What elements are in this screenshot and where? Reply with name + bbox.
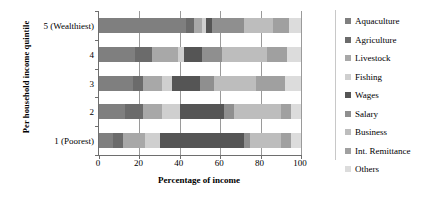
bar-segment-business[interactable] <box>234 104 280 119</box>
legend-divider <box>335 10 336 160</box>
bar-segment-aquaculture[interactable] <box>99 76 133 91</box>
y-axis-tick <box>95 126 99 127</box>
bar-segment-salary[interactable] <box>224 104 234 119</box>
bar-segment-agriculture[interactable] <box>133 76 143 91</box>
bar-segment-wages[interactable] <box>172 76 200 91</box>
legend-swatch-icon <box>345 37 351 43</box>
legend-swatch-icon <box>345 74 351 80</box>
y-axis-tick-label: 5 (Wealthiest) <box>10 21 94 31</box>
bar-segment-aquaculture[interactable] <box>99 47 135 62</box>
legend-label: Int. Remittance <box>355 146 410 156</box>
y-axis-tick <box>95 40 99 41</box>
bar-segment-business[interactable] <box>222 47 266 62</box>
bar-segment-int-remittance[interactable] <box>281 104 291 119</box>
bar-segment-business[interactable] <box>250 133 280 148</box>
bar-segment-livestock[interactable] <box>143 76 161 91</box>
legend-label: Agriculture <box>355 35 396 45</box>
legend-swatch-icon <box>345 111 351 117</box>
legend-swatch-icon <box>345 55 351 61</box>
bar-segment-int-remittance[interactable] <box>273 18 289 33</box>
bar-segment-agriculture[interactable] <box>186 18 194 33</box>
x-axis-tick-label: 40 <box>159 158 199 168</box>
bar-segment-business[interactable] <box>244 18 272 33</box>
stacked-bar-row[interactable] <box>99 76 301 91</box>
bar-segment-others[interactable] <box>285 76 301 91</box>
x-axis-title: Percentage of income <box>98 175 300 185</box>
legend-item[interactable]: Salary <box>345 105 435 124</box>
bar-segment-livestock[interactable] <box>152 47 178 62</box>
legend-item[interactable]: Business <box>345 123 435 142</box>
x-axis-tick-label: 20 <box>118 158 158 168</box>
stacked-bar-row[interactable] <box>99 104 301 119</box>
bar-segment-others[interactable] <box>287 47 301 62</box>
bar-segment-livestock[interactable] <box>194 18 202 33</box>
bar-segment-wages[interactable] <box>184 47 202 62</box>
y-axis-tick <box>95 69 99 70</box>
legend-swatch-icon <box>345 148 351 154</box>
bar-segment-int-remittance[interactable] <box>281 133 291 148</box>
legend-item[interactable]: Others <box>345 160 435 179</box>
bar-segment-fishing[interactable] <box>145 133 159 148</box>
bar-segment-others[interactable] <box>289 18 301 33</box>
legend-item[interactable]: Agriculture <box>345 31 435 50</box>
bar-segment-livestock[interactable] <box>143 104 161 119</box>
bar-segment-aquaculture[interactable] <box>99 133 113 148</box>
y-axis-tick <box>95 11 99 12</box>
bar-segment-aquaculture[interactable] <box>99 18 186 33</box>
bar-segment-wages[interactable] <box>160 133 245 148</box>
bar-segment-fishing[interactable] <box>162 76 172 91</box>
x-axis-tick-label: 0 <box>78 158 118 168</box>
bar-segment-wages[interactable] <box>180 104 224 119</box>
legend-item[interactable]: Livestock <box>345 49 435 68</box>
legend-swatch-icon <box>345 129 351 135</box>
legend-label: Salary <box>355 109 378 119</box>
bar-segment-fishing[interactable] <box>162 104 180 119</box>
bar-segment-salary[interactable] <box>202 47 222 62</box>
legend-item[interactable]: Fishing <box>345 68 435 87</box>
bar-segment-aquaculture[interactable] <box>99 104 125 119</box>
bar-segment-salary[interactable] <box>200 76 214 91</box>
legend-label: Wages <box>355 90 379 100</box>
legend-label: Aquaculture <box>355 16 399 26</box>
bar-segment-business[interactable] <box>214 76 256 91</box>
bar-segment-int-remittance[interactable] <box>256 76 284 91</box>
y-axis-tick-label: 3 <box>10 79 94 89</box>
legend-swatch-icon <box>345 92 351 98</box>
bar-segment-others[interactable] <box>291 133 301 148</box>
legend-label: Others <box>355 164 379 174</box>
stacked-bar-row[interactable] <box>99 133 301 148</box>
bar-segment-int-remittance[interactable] <box>267 47 287 62</box>
bar-segment-salary[interactable] <box>212 18 244 33</box>
x-axis-tick-label: 80 <box>240 158 280 168</box>
x-axis-tick-label: 100 <box>280 158 320 168</box>
bar-segment-agriculture[interactable] <box>125 104 143 119</box>
bar-segment-livestock[interactable] <box>123 133 145 148</box>
legend-item[interactable]: Wages <box>345 86 435 105</box>
bar-segment-agriculture[interactable] <box>135 47 151 62</box>
legend-item[interactable]: Int. Remittance <box>345 142 435 161</box>
y-axis-tick-label: 4 <box>10 50 94 60</box>
stacked-bar-row[interactable] <box>99 47 301 62</box>
legend-swatch-icon <box>345 18 351 24</box>
legend-label: Fishing <box>355 72 382 82</box>
gridline <box>301 11 302 155</box>
legend-item[interactable]: Aquaculture <box>345 12 435 31</box>
x-axis-tick-label: 60 <box>199 158 239 168</box>
y-axis-tick <box>95 97 99 98</box>
chart-legend: AquacultureAgricultureLivestockFishingWa… <box>345 12 435 179</box>
legend-label: Business <box>355 127 387 137</box>
plot-area <box>98 11 301 156</box>
stacked-bar-row[interactable] <box>99 18 301 33</box>
legend-swatch-icon <box>345 166 351 172</box>
stacked-bar-chart: Per household income quintile 5 (Wealthi… <box>0 0 435 198</box>
bar-segment-agriculture[interactable] <box>113 133 123 148</box>
legend-label: Livestock <box>355 53 391 63</box>
y-axis-tick-label: 2 <box>10 107 94 117</box>
bar-segment-others[interactable] <box>291 104 301 119</box>
y-axis-tick-label: 1 (Poorest) <box>10 136 94 146</box>
